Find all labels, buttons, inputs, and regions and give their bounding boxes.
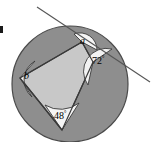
edge-artifact-mark (0, 26, 3, 33)
angle-label-72: 72° (92, 55, 104, 66)
angle-label-48: 48° (54, 110, 66, 121)
angle-label-72-degree-symbol: ° (102, 55, 104, 61)
geometry-figure: a b 72° 48° (0, 0, 157, 142)
angle-label-b: b (24, 71, 29, 81)
angle-label-48-degree-symbol: ° (64, 110, 66, 116)
angle-label-a: a (80, 36, 85, 46)
angle-label-72-value: 72 (92, 55, 102, 66)
angle-label-48-value: 48 (54, 110, 64, 121)
